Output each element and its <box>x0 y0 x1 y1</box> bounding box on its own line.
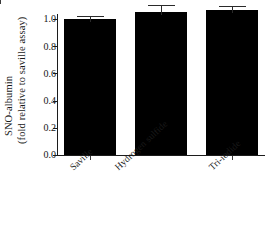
errorbar-stem-tri-iodide <box>232 6 233 13</box>
y-tick-mark-0.4 <box>53 101 57 102</box>
errorbar-cap-hydrogen-sulfide <box>148 5 175 6</box>
bar-saville <box>64 19 116 155</box>
y-tick-mark-0.6 <box>53 73 57 74</box>
errorbar-cap-saville <box>77 16 104 17</box>
errorbar-cap-tri-iodide <box>219 6 246 7</box>
x-tick-mark-1 <box>0 0 1 4</box>
y-tick-mark-0.2 <box>53 128 57 129</box>
errorbar-stem-hydrogen-sulfide <box>161 5 162 15</box>
figure-canvas: SNO-albumin (fold relative to saville as… <box>0 0 278 227</box>
bar-tri-iodide <box>206 10 258 155</box>
plot-area: Saville Hydrogen sulfide Tri-iodide <box>0 0 278 227</box>
x-tick-mark-2 <box>232 156 233 160</box>
y-tick-mark-1.0 <box>53 19 57 20</box>
y-tick-mark-0.0 <box>53 155 57 156</box>
y-axis-spine <box>57 14 58 156</box>
y-tick-mark-0.8 <box>53 46 57 47</box>
